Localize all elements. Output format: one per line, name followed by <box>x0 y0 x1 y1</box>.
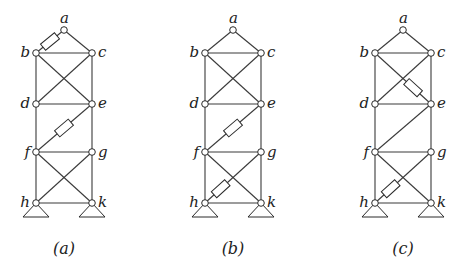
node-f <box>372 149 379 156</box>
panel-caption: (c) <box>392 239 413 258</box>
node-label-a: a <box>399 9 408 27</box>
element-box-be <box>404 79 423 97</box>
node-label-g: g <box>267 143 277 161</box>
node-b <box>372 50 379 57</box>
truss-panels: abcdefghk(a)abcdefghk(b)abcdefghk(c) <box>20 9 446 258</box>
node-label-f: f <box>192 143 201 161</box>
node-g <box>258 149 265 156</box>
node-label-h: h <box>189 193 199 211</box>
member-ac <box>233 30 261 53</box>
node-label-k: k <box>437 193 446 211</box>
node-label-h: h <box>359 193 369 211</box>
element-box-hg <box>381 180 400 198</box>
node-label-c: c <box>98 43 107 61</box>
node-label-b: b <box>189 43 199 61</box>
node-label-d: d <box>20 94 30 112</box>
node-label-c: c <box>437 43 446 61</box>
node-label-k: k <box>98 193 107 211</box>
node-label-f: f <box>23 143 32 161</box>
node-a <box>61 27 68 34</box>
node-e <box>89 101 96 108</box>
member-ac <box>64 30 92 53</box>
node-a <box>230 27 237 34</box>
truss-panel-b: abcdefghk(b) <box>189 9 276 258</box>
node-f <box>202 149 209 156</box>
element-box-ef <box>55 119 74 137</box>
member-ef <box>375 104 431 152</box>
node-g <box>428 149 435 156</box>
node-k <box>89 200 96 207</box>
node-h <box>372 200 379 207</box>
node-d <box>33 101 40 108</box>
node-label-c: c <box>267 43 276 61</box>
node-h <box>33 200 40 207</box>
node-a <box>400 27 407 34</box>
node-label-a: a <box>229 9 238 27</box>
node-label-k: k <box>267 193 276 211</box>
node-label-g: g <box>98 143 108 161</box>
node-label-e: e <box>437 94 446 112</box>
node-e <box>258 101 265 108</box>
element-box-hg <box>211 180 230 198</box>
member-ab <box>375 30 403 53</box>
node-label-b: b <box>359 43 369 61</box>
node-label-f: f <box>362 143 371 161</box>
node-f <box>33 149 40 156</box>
panel-caption: (b) <box>222 239 245 258</box>
node-g <box>89 149 96 156</box>
node-c <box>258 50 265 57</box>
node-label-a: a <box>60 9 69 27</box>
node-h <box>202 200 209 207</box>
node-label-d: d <box>359 94 369 112</box>
node-label-g: g <box>437 143 447 161</box>
node-label-e: e <box>267 94 276 112</box>
node-label-b: b <box>20 43 30 61</box>
member-ac <box>403 30 431 53</box>
truss-panel-c: abcdefghk(c) <box>359 9 446 258</box>
node-k <box>428 200 435 207</box>
truss-panel-a: abcdefghk(a) <box>20 9 107 258</box>
node-d <box>202 101 209 108</box>
element-box-ef <box>224 119 243 137</box>
node-label-d: d <box>189 94 199 112</box>
member-ab <box>205 30 233 53</box>
node-e <box>428 101 435 108</box>
node-k <box>258 200 265 207</box>
node-label-e: e <box>98 94 107 112</box>
element-box-ab <box>41 33 60 51</box>
node-c <box>89 50 96 57</box>
node-b <box>202 50 209 57</box>
node-c <box>428 50 435 57</box>
node-d <box>372 101 379 108</box>
node-label-h: h <box>20 193 30 211</box>
node-b <box>33 50 40 57</box>
panel-caption: (a) <box>53 239 75 258</box>
truss-figure: abcdefghk(a)abcdefghk(b)abcdefghk(c) <box>0 0 466 273</box>
